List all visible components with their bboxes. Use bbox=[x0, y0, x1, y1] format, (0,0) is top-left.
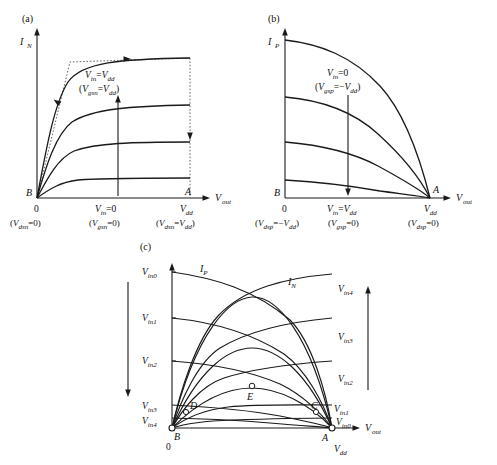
panel-c-y-arrow bbox=[169, 263, 175, 271]
panel-c-point-b-label: B bbox=[174, 431, 180, 442]
panel-c-origin-zero: 0 bbox=[166, 442, 171, 452]
panel-c: (c) V out Vin0 Vin1 bbox=[125, 241, 382, 457]
panel-b-tag: (b) bbox=[268, 13, 280, 25]
panel-c-right-label-2: Vin2 bbox=[338, 374, 353, 387]
panel-b-tick0-paren: (Vdsp=−Vdd) bbox=[255, 218, 299, 231]
panel-b-tick0-main: 0 bbox=[282, 204, 287, 214]
panel-a-x-axis-sub: out bbox=[222, 198, 232, 206]
panel-b-y-arrow bbox=[282, 28, 288, 36]
panel-a-curve-annotation: Vin=Vdd (Vgsn=Vdd) bbox=[79, 70, 121, 196]
panel-a-tick1-paren: (Vgsn=0) bbox=[89, 218, 120, 231]
panel-c-point-d-marker bbox=[183, 409, 188, 414]
panel-c-right-arrow-head bbox=[365, 286, 371, 294]
panel-b-ann-line2: (Vgsp=−Vdd) bbox=[315, 82, 360, 95]
figure-svg: (a) I N V out Vin=Vdd (Vgsn=Vdd) bbox=[0, 0, 497, 465]
panel-a-y-arrow bbox=[34, 28, 40, 36]
panel-a-tick1-main: Vin=0 bbox=[95, 204, 117, 217]
panel-c-left-label-2: Vin2 bbox=[142, 356, 157, 369]
panel-b-point-b: B bbox=[274, 187, 280, 198]
panel-a-tick2-paren: (Vdsn=Vdd) bbox=[156, 218, 195, 231]
panel-c-in-label: IN bbox=[287, 276, 296, 290]
panel-b-x-arrow bbox=[444, 195, 452, 201]
panel-a-y-axis-label: I bbox=[19, 36, 24, 47]
panel-c-left-label-0: Vin0 bbox=[142, 267, 157, 280]
panel-a: (a) I N V out Vin=Vdd (Vgsn=Vdd) bbox=[10, 13, 232, 231]
panel-c-left-label-1: Vin1 bbox=[142, 313, 157, 326]
panel-b-point-a: A bbox=[432, 184, 440, 195]
panel-a-x-arrow bbox=[203, 195, 211, 201]
panel-c-point-a-marker bbox=[329, 425, 335, 431]
panel-b-tick1-paren: (Vgsp=0) bbox=[328, 218, 359, 231]
panel-c-point-e-marker bbox=[249, 383, 255, 389]
panel-b-x-axis-sub: out bbox=[463, 198, 473, 206]
panel-c-right-label-1: Vin3 bbox=[338, 332, 353, 345]
panel-a-locus-arrow-3 bbox=[187, 133, 193, 141]
panel-a-point-a: A bbox=[184, 186, 192, 197]
panel-c-point-a-label: A bbox=[321, 432, 329, 443]
panel-c-ip-label: IP bbox=[199, 263, 208, 277]
panel-a-tick2-main: Vdd bbox=[180, 204, 193, 217]
panel-a-ann-arrow-head bbox=[115, 95, 121, 103]
panel-c-tag: (c) bbox=[140, 241, 151, 253]
panel-b-curve-annotation: Vin=0 (Vgsp=−Vdd) bbox=[315, 68, 360, 196]
panel-b-ann-line1: Vin=0 bbox=[327, 68, 349, 81]
panel-c-end-vdd-label: Vdd bbox=[334, 444, 347, 457]
panel-b-curve-3 bbox=[285, 142, 430, 198]
panel-c-right-label-3: Vin1 bbox=[334, 404, 349, 417]
panel-a-tick0-paren: (Vdsn=0) bbox=[10, 218, 41, 231]
panel-a-ann-line2: (Vgsn=Vdd) bbox=[79, 84, 119, 97]
panel-b-tick2-main: Vdd bbox=[424, 204, 437, 217]
panel-b-y-axis-label: I bbox=[267, 36, 272, 47]
panel-a-curve-3 bbox=[37, 142, 190, 198]
panel-c-point-e-label: E bbox=[246, 391, 253, 402]
figure-container: (a) I N V out Vin=Vdd (Vgsn=Vdd) bbox=[0, 0, 497, 465]
panel-b-ann-arrow-head bbox=[345, 189, 351, 197]
panel-c-left-label-3: Vin3 bbox=[142, 401, 157, 414]
panel-a-tick0-main: 0 bbox=[34, 204, 39, 214]
panel-b: (b) I P V out Vin=0 (Vgsp=−Vdd) B A 0 bbox=[255, 13, 473, 231]
panel-b-y-axis-sub: P bbox=[274, 42, 280, 50]
panel-c-left-arrow-head bbox=[125, 390, 131, 398]
panel-c-point-d-label: D bbox=[189, 400, 198, 411]
panel-b-tick1-main: Vin=Vdd bbox=[327, 204, 357, 217]
panel-a-point-b: B bbox=[26, 187, 32, 198]
panel-c-point-c-label: C bbox=[311, 400, 318, 411]
panel-c-x-axis-sub: out bbox=[372, 428, 382, 436]
panel-a-curve-4 bbox=[37, 178, 190, 198]
panel-c-right-label-0: Vin4 bbox=[338, 284, 353, 297]
panel-b-tick2-paren: (Vdsp=0) bbox=[408, 218, 439, 231]
panel-a-tag: (a) bbox=[22, 13, 33, 25]
panel-c-x-arrow bbox=[353, 425, 361, 431]
panel-c-left-label-4: Vin4 bbox=[142, 416, 157, 429]
panel-a-ann-line1: Vin=Vdd bbox=[85, 70, 115, 83]
panel-a-y-axis-sub: N bbox=[26, 42, 32, 50]
